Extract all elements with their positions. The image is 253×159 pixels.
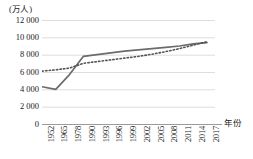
- y-axis-tick-label: 8 000: [0, 50, 39, 59]
- x-axis-line: [42, 124, 222, 125]
- x-axis-tick-label: 2017: [212, 126, 221, 142]
- x-axis-tick-label: 1990: [88, 126, 97, 142]
- y-axis-tick-labels: 02 0004 0006 0008 00010 00012 000: [0, 0, 39, 159]
- line-chart: (万人) 02 0004 0006 0008 00010 00012 000 1…: [0, 0, 253, 159]
- series-line: [42, 43, 207, 90]
- y-axis-tick-label: 2 000: [0, 102, 39, 111]
- y-axis-tick-label: 6 000: [0, 68, 39, 77]
- plot-area: [42, 20, 215, 124]
- x-axis-tick-label: 1999: [129, 126, 138, 142]
- x-axis-tick-labels: 1952196519781990199319961999200220052008…: [42, 126, 222, 159]
- x-axis-tick-label: 1978: [74, 126, 83, 142]
- x-axis-tick-label: 2014: [198, 126, 207, 142]
- y-axis-tick-label: 12 000: [0, 16, 39, 25]
- plot-svg: [42, 20, 215, 124]
- y-axis-tick-label: 10 000: [0, 33, 39, 42]
- y-axis-tick-label: 0: [0, 120, 39, 129]
- x-axis-tick-label: 1952: [47, 126, 56, 142]
- x-axis-title: 年份: [224, 118, 242, 128]
- x-axis-tick-label: 2011: [184, 126, 193, 142]
- x-axis-tick-label: 2002: [143, 126, 152, 142]
- x-axis-tick-label: 1993: [102, 126, 111, 142]
- x-axis-tick-label: 2005: [157, 126, 166, 142]
- x-axis-tick-label: 2008: [170, 126, 179, 142]
- x-axis-tick-label: 1996: [115, 126, 124, 142]
- y-axis-tick-label: 4 000: [0, 85, 39, 94]
- x-axis-tick-label: 1965: [60, 126, 69, 142]
